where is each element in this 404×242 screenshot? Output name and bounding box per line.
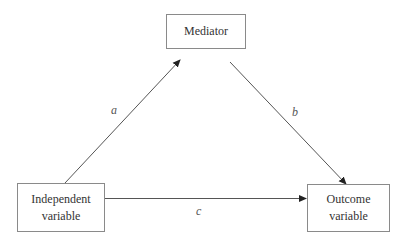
- edge-a-arrow: [65, 60, 180, 183]
- independent-variable-node: Independent variable: [17, 183, 105, 232]
- mediation-diagram: Mediator Independent variable Outcome va…: [0, 0, 404, 242]
- edge-c-label: c: [196, 205, 201, 217]
- edge-b-arrow: [230, 62, 346, 184]
- mediator-label: Mediator: [184, 23, 228, 40]
- outcome-variable-label: Outcome variable: [327, 191, 371, 225]
- outcome-variable-node: Outcome variable: [307, 184, 390, 232]
- edge-b-label: b: [292, 106, 298, 118]
- mediator-node: Mediator: [166, 14, 246, 49]
- edge-a-label: a: [111, 104, 117, 116]
- independent-variable-label: Independent variable: [31, 191, 90, 225]
